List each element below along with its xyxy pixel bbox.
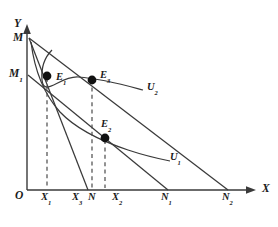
point-E2-sub: 2 [108, 126, 111, 133]
indifference-curve-U1-path [31, 42, 170, 161]
y-intercept-M1-sub: 1 [19, 76, 23, 84]
x-tick-label-X1: X1 [41, 192, 51, 205]
x-tick-N1-text: N [161, 191, 169, 202]
x-tick-X2-text: X [112, 191, 119, 202]
curve-U1-text: U [170, 151, 178, 162]
y-intercept-M-text: M [13, 31, 23, 43]
equilibrium-dot-E1 [43, 72, 52, 81]
x-tick-X3-sub: 3 [79, 199, 82, 206]
x-tick-label-X3: X3 [72, 192, 82, 205]
curve-label-U2: U2 [147, 82, 158, 95]
point-E3-text: E [100, 69, 107, 80]
indifference-curve-figure: Y X O M M1 E1 E3 E2 U2 U1 X1 X3 N X2 N1 … [0, 0, 278, 227]
x-tick-label-N2: N2 [222, 192, 233, 205]
x-axis-label: X [262, 183, 270, 195]
point-label-E3: E3 [100, 70, 110, 83]
point-E2-text: E [101, 118, 108, 129]
x-tick-label-N1: N1 [161, 192, 172, 205]
equilibrium-dot-E2 [101, 134, 110, 143]
y-intercept-label-M: M [13, 32, 23, 44]
x-tick-X2-sub: 2 [119, 199, 122, 206]
point-label-E1: E1 [56, 72, 66, 85]
x-tick-N1-sub: 1 [169, 199, 172, 206]
x-tick-N-text: N [88, 191, 96, 202]
origin-label: O [15, 190, 23, 202]
y-axis-label: Y [14, 18, 21, 30]
equilibrium-dot-E3 [88, 76, 97, 85]
x-tick-label-N: N [88, 192, 96, 203]
curve-U2-text: U [147, 81, 155, 92]
point-label-E2: E2 [101, 119, 111, 132]
curve-U1-sub: 1 [178, 159, 181, 166]
curve-label-U1: U1 [170, 152, 181, 165]
y-intercept-M1-text: M [9, 67, 19, 79]
x-tick-X1-sub: 1 [48, 199, 51, 206]
x-tick-X1-text: X [41, 191, 48, 202]
point-E1-text: E [56, 71, 63, 82]
y-intercept-label-M1: M1 [9, 68, 23, 82]
curve-U2-sub: 2 [155, 89, 158, 96]
x-tick-label-X2: X2 [112, 192, 122, 205]
x-tick-X3-text: X [72, 191, 79, 202]
point-E3-sub: 3 [107, 77, 110, 84]
point-E1-sub: 1 [63, 79, 66, 86]
x-tick-N2-text: N [222, 191, 230, 202]
y-axis [23, 24, 31, 190]
x-tick-N2-sub: 2 [230, 199, 233, 206]
